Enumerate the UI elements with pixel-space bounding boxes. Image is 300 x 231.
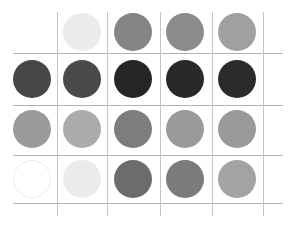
circle-r2-c5 bbox=[218, 60, 256, 98]
circle-r3-c2 bbox=[63, 110, 101, 148]
grid-horizontal-line bbox=[13, 105, 283, 106]
circle-r2-c3 bbox=[114, 60, 152, 98]
grid-vertical-line bbox=[160, 12, 161, 216]
circle-r1-c3 bbox=[114, 13, 152, 51]
circle-r2-c1 bbox=[13, 60, 51, 98]
circle-r1-c5 bbox=[218, 13, 256, 51]
grid-horizontal-line bbox=[13, 155, 283, 156]
circle-r3-c1 bbox=[13, 110, 51, 148]
circle-r4-c2 bbox=[63, 160, 101, 198]
circle-r3-c5 bbox=[218, 110, 256, 148]
circle-r4-c1 bbox=[13, 160, 51, 198]
circle-r4-c3 bbox=[114, 160, 152, 198]
circle-r1-c4 bbox=[166, 13, 204, 51]
circle-r3-c4 bbox=[166, 110, 204, 148]
circle-r3-c3 bbox=[114, 110, 152, 148]
circle-r4-c4 bbox=[166, 160, 204, 198]
circle-grid-diagram bbox=[0, 0, 300, 231]
grid-vertical-line bbox=[107, 12, 108, 216]
grid-horizontal-line bbox=[13, 203, 283, 204]
circle-r4-c5 bbox=[218, 160, 256, 198]
grid-horizontal-line bbox=[13, 53, 283, 54]
grid-vertical-line bbox=[57, 12, 58, 216]
circle-r1-c2 bbox=[63, 13, 101, 51]
circle-r2-c2 bbox=[63, 60, 101, 98]
grid-vertical-line bbox=[263, 12, 264, 216]
grid-vertical-line bbox=[212, 12, 213, 216]
circle-r2-c4 bbox=[166, 60, 204, 98]
